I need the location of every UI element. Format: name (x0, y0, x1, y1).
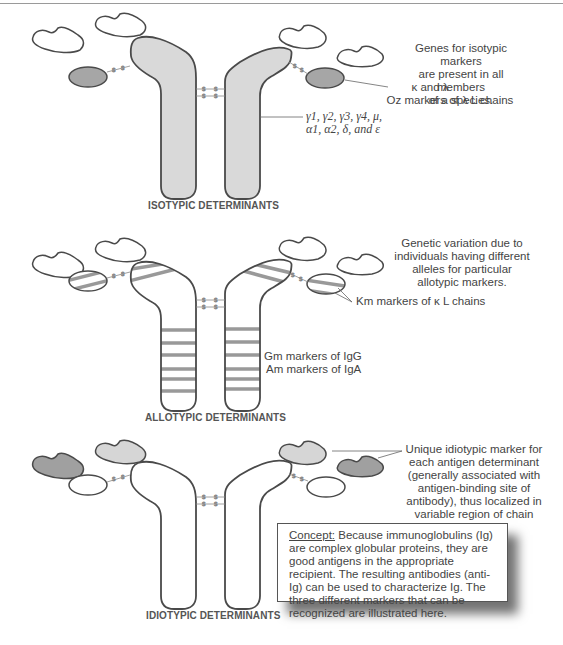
isotypic-description-line: Genes for isotypic markers (396, 42, 526, 68)
concept-heading: Concept: (289, 529, 335, 541)
allotypic-title: ALLOTYPIC DETERMINANTS (145, 412, 286, 423)
isotypic-antibody: SS SS SS SS (33, 13, 388, 199)
isotypic-title: ISOTYPIC DETERMINANTS (148, 200, 279, 211)
oz-markers-label: Oz markers of λ L chains (370, 94, 530, 107)
concept-text: Because immunoglobulins (Ig) are complex… (289, 529, 493, 619)
allotypic-description-line: alleles for particular (392, 263, 532, 276)
allotypic-description-line: individuals having different (392, 250, 532, 263)
idiotypic-description: Unique idiotypic marker for each antigen… (404, 443, 544, 521)
kappa-lambda-label: κ and λ (330, 81, 530, 94)
gm-markers-label: Gm markers of IgG (264, 350, 384, 363)
allotypic-description: Genetic variation due to individuals hav… (392, 237, 532, 289)
left-light-chain (33, 27, 107, 87)
concept-box: Concept: Because immunoglobulins (Ig) ar… (277, 523, 508, 602)
svg-text:S: S (112, 476, 116, 482)
idiotypic-description-line: antibody), thus localized in (404, 495, 544, 508)
idiotypic-description-line: Unique idiotypic marker for (404, 443, 544, 456)
allotypic-heavy-chain-label: Gm markers of IgG Am markers of IgA (264, 350, 384, 376)
allotypic-antibody: SS SS SS SS (33, 237, 384, 411)
svg-text:S: S (121, 271, 125, 277)
isotypic-light-chain-label: κ and λ Oz markers of λ L chains (370, 81, 530, 107)
svg-text:S: S (293, 63, 297, 69)
allotypic-description-line: allotypic markers. (392, 276, 532, 289)
idiotypic-title: IDIOTYPIC DETERMINANTS (146, 610, 280, 621)
idiotypic-description-line: (generally associated with (404, 469, 544, 482)
svg-text:S: S (291, 272, 295, 278)
isotypic-heavy-chain-label: γ1, γ2, γ3, γ4, μ, α1, α2, δ, and ε (306, 110, 436, 136)
km-markers-label: Km markers of κ L chains (356, 295, 526, 308)
heavy-chain-classes-line: α1, α2, δ, and ε (306, 123, 436, 136)
am-markers-label: Am markers of IgA (264, 363, 384, 376)
svg-text:S: S (300, 67, 304, 73)
idiotypic-description-line: antigen-binding site of (404, 482, 544, 495)
svg-text:S: S (121, 65, 125, 71)
idiotypic-description-line: each antigen determinant (404, 456, 544, 469)
idiotypic-description-line: variable region of chain (404, 508, 544, 521)
allotypic-description-line: Genetic variation due to (392, 237, 532, 250)
